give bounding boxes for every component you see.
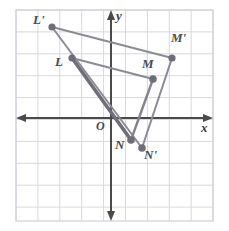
geometry-figure: L' L M M' N N' O x y [0,0,229,231]
label-m: M [142,57,154,70]
vertex-l-prime [48,23,55,30]
vertex-l [68,54,75,61]
coordinate-plane-svg [0,0,229,231]
vertex-m [149,75,157,83]
x-axis-label: x [201,121,208,134]
origin-label: O [96,120,105,132]
vertex-n [127,136,135,144]
label-n-prime: N' [144,148,157,161]
label-m-prime: M' [171,31,186,44]
label-l-prime: L' [33,13,45,26]
y-axis-label: y [116,9,122,22]
label-l: L [55,55,63,68]
vertex-m-prime [168,54,175,61]
label-n: N [115,138,124,151]
